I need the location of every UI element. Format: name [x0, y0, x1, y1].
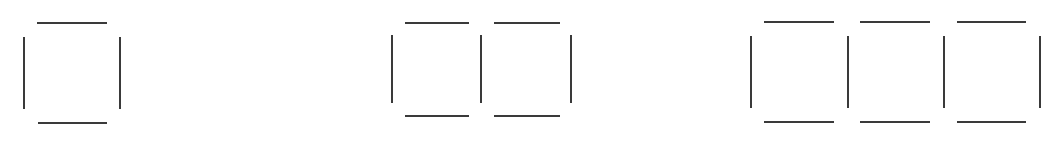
figure-three-squares [751, 22, 1040, 122]
matchstick-squares-diagram [0, 0, 1059, 161]
figure-two-squares [392, 23, 571, 116]
figure-one-square [24, 23, 120, 123]
